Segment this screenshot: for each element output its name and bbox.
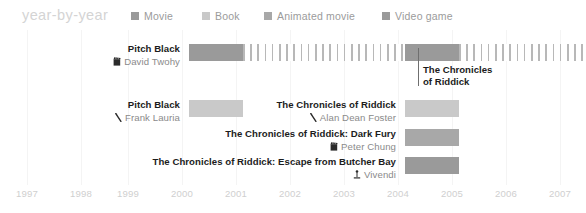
bar-chronicles-of-riddick-book-0[interactable] [405, 100, 459, 117]
axis-tick-2004: 2004 [387, 188, 409, 199]
film-clapper-icon [330, 142, 338, 151]
row-author-line: David Twohy [113, 56, 180, 68]
row-author: Peter Chung [341, 141, 396, 153]
row-title: Pitch Black [113, 43, 180, 55]
callout-line-2: of Riddick [423, 76, 469, 87]
axis-tick-2001: 2001 [225, 188, 247, 199]
callout-label: The Chronicles of Riddick [423, 64, 492, 87]
row-author-line: Vivendi [153, 169, 396, 181]
axis-tick-2003: 2003 [333, 188, 355, 199]
row-author: Alan Dean Foster [320, 112, 396, 124]
row-author-line: Frank Lauria [115, 112, 180, 124]
legend-swatch-icon [131, 12, 139, 20]
row-label-pitch-black-movie: Pitch BlackDavid Twohy [113, 43, 180, 67]
axis-tick-1999: 1999 [117, 188, 139, 199]
axis-tick-2006: 2006 [495, 188, 517, 199]
row-author: Vivendi [364, 169, 396, 181]
row-label-chronicles-of-riddick-book: The Chronicles of RiddickAlan Dean Foste… [276, 99, 396, 123]
bar-pitch-black-movie-1[interactable] [243, 44, 405, 61]
callout-leader-line [418, 48, 419, 86]
bar-pitch-black-movie-0[interactable] [189, 44, 243, 61]
bar-pitch-black-book-0[interactable] [189, 100, 243, 117]
axis-tick-2000: 2000 [171, 188, 193, 199]
legend-swatch-icon [202, 12, 210, 20]
legend-item-book[interactable]: Book [202, 9, 240, 23]
row-title: Pitch Black [115, 99, 180, 111]
axis-tick-2007: 2007 [549, 188, 571, 199]
bar-pitch-black-movie-3[interactable] [459, 44, 586, 61]
row-title: The Chronicles of Riddick [276, 99, 396, 111]
row-title: The Chronicles of Riddick: Escape from B… [153, 156, 396, 168]
plot-area: Pitch BlackDavid TwohyPitch BlackFrank L… [0, 30, 586, 185]
axis-tick-1998: 1998 [70, 188, 92, 199]
bar-pitch-black-movie-2[interactable] [405, 44, 459, 61]
legend-item-animated-movie[interactable]: Animated movie [264, 9, 355, 23]
legend-item-label: Book [215, 10, 240, 22]
axis-tick-2005: 2005 [441, 188, 463, 199]
gridline-1998 [81, 30, 82, 185]
legend-swatch-icon [264, 12, 272, 20]
film-clapper-icon [113, 57, 121, 66]
chart-canvas: year-by-year MovieBookAnimated movieVide… [0, 0, 586, 213]
chart-header: year-by-year MovieBookAnimated movieVide… [0, 0, 586, 30]
legend-swatch-icon [382, 12, 390, 20]
callout-line-1: The Chronicles [423, 64, 492, 75]
row-author: Frank Lauria [125, 112, 180, 124]
page-title: year-by-year [22, 7, 108, 23]
row-label-dark-fury-animated: The Chronicles of Riddick: Dark FuryPete… [225, 128, 396, 152]
row-title: The Chronicles of Riddick: Dark Fury [225, 128, 396, 140]
joystick-icon [353, 170, 361, 179]
gridline-1997 [27, 30, 28, 185]
bar-dark-fury-animated-0[interactable] [405, 129, 459, 146]
row-author-line: Peter Chung [225, 141, 396, 153]
bar-butcher-bay-game-0[interactable] [405, 157, 459, 174]
legend-item-label: Animated movie [277, 10, 355, 22]
x-axis: 1997199819992000200120022003200420052006… [0, 188, 586, 208]
legend-item-video-game[interactable]: Video game [382, 9, 453, 23]
book-pen-icon [115, 113, 122, 122]
legend-item-label: Movie [144, 10, 173, 22]
book-pen-icon [310, 113, 317, 122]
axis-tick-2002: 2002 [279, 188, 301, 199]
row-author-line: Alan Dean Foster [276, 112, 396, 124]
legend-item-label: Video game [395, 10, 453, 22]
row-label-pitch-black-book: Pitch BlackFrank Lauria [115, 99, 180, 123]
axis-tick-1997: 1997 [16, 188, 38, 199]
legend-item-movie[interactable]: Movie [131, 9, 173, 23]
row-label-butcher-bay-game: The Chronicles of Riddick: Escape from B… [153, 156, 396, 180]
row-author: David Twohy [124, 56, 180, 68]
